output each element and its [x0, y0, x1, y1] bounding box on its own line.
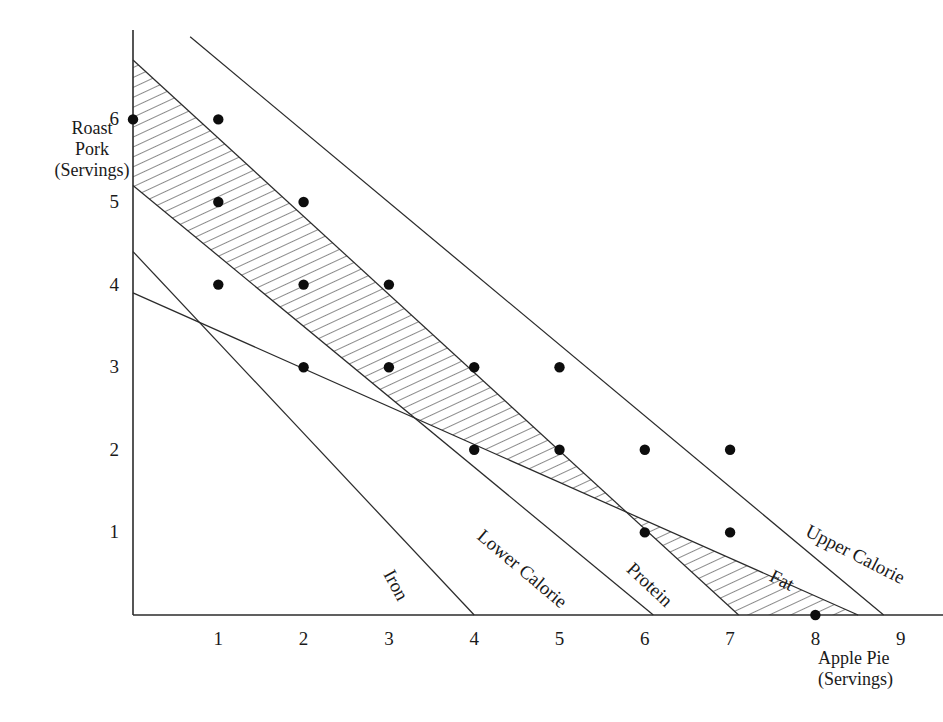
x-tick-label-9: 9 [886, 629, 916, 648]
data-point [725, 445, 735, 455]
y-tick-label-6: 6 [93, 109, 119, 128]
x-tick-label-8: 8 [800, 629, 830, 648]
plot-canvas [0, 0, 943, 722]
data-point [213, 197, 223, 207]
data-point [298, 197, 308, 207]
x-tick-label-4: 4 [459, 629, 489, 648]
x-tick-label-1: 1 [203, 629, 233, 648]
y-axis-title-line-1: Roast [44, 118, 140, 139]
data-point [640, 527, 650, 537]
y-tick-label-4: 4 [93, 275, 119, 294]
data-point [554, 362, 564, 372]
data-point [469, 445, 479, 455]
data-point [213, 114, 223, 124]
y-axis-title-line-2: Pork [44, 139, 140, 160]
x-tick-label-6: 6 [630, 629, 660, 648]
x-tick-label-5: 5 [545, 629, 575, 648]
data-point [725, 527, 735, 537]
y-tick-label-1: 1 [93, 522, 119, 541]
data-point [384, 362, 394, 372]
x-axis-title-line-1: Apple Pie [818, 648, 943, 669]
data-point [384, 279, 394, 289]
data-point [640, 445, 650, 455]
y-axis-title: Roast Pork (Servings) [44, 118, 140, 182]
data-point [554, 445, 564, 455]
x-axis-title: Apple Pie (Servings) [818, 648, 943, 690]
chart-container: Roast Pork (Servings) Apple Pie (Serving… [0, 0, 943, 722]
constraint-line-upper-calorie [190, 37, 883, 615]
y-axis-title-line-3: (Servings) [44, 160, 140, 181]
data-point [810, 610, 820, 620]
y-tick-label-3: 3 [93, 357, 119, 376]
data-point [298, 279, 308, 289]
x-tick-label-7: 7 [715, 629, 745, 648]
y-tick-label-5: 5 [93, 192, 119, 211]
y-tick-label-2: 2 [93, 440, 119, 459]
data-point [213, 279, 223, 289]
constraint-line-lower-calorie [133, 185, 653, 615]
data-point [469, 362, 479, 372]
constraint-line-fat [133, 293, 858, 615]
constraint-lines-group [133, 37, 884, 615]
x-tick-label-2: 2 [289, 629, 319, 648]
x-tick-label-3: 3 [374, 629, 404, 648]
x-axis-title-line-2: (Servings) [818, 669, 943, 690]
data-point [298, 362, 308, 372]
